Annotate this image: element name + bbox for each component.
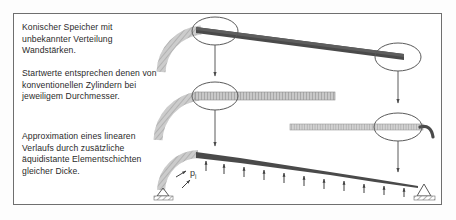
stage-3-layered <box>154 152 435 200</box>
stage-2-cylindrical <box>158 82 433 172</box>
stage-1-conical-vessel <box>161 17 421 103</box>
figure-canvas: Konischer Speicher mit unbekannter Verte… <box>0 0 456 220</box>
diagram-graphics <box>0 0 456 220</box>
cylinder-bar-upper <box>195 92 335 100</box>
stepped-tapered-wall <box>196 152 240 163</box>
cylinder-bar-lower <box>290 124 423 130</box>
